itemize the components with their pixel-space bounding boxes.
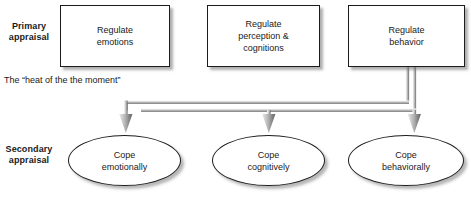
process-box-label: Regulate perception & cognitions [238,18,289,54]
outcome-ellipse-cope-emotionally[interactable]: Cope emotionally [68,135,181,186]
outcome-ellipse-cope-cognitively[interactable]: Cope cognitively [212,135,325,186]
connector-arrow-cope-behaviorally [408,110,421,133]
outcome-ellipse-label: Cope behaviorally [382,149,430,173]
process-box-regulate-behavior[interactable]: Regulate behavior [348,5,465,67]
process-box-label: Regulate emotions [97,24,134,48]
process-box-label: Regulate behavior [388,24,424,48]
row-label-secondary-appraisal: Secondary appraisal [2,144,56,166]
connector-trunk-lower [141,67,416,112]
appraisal-diagram: Primary appraisal Secondary appraisal Th… [0,0,471,201]
process-box-regulate-emotions[interactable]: Regulate emotions [60,5,170,67]
connector-arrow-cope-cognitively [262,110,275,133]
connector-trunk-upper [124,67,409,111]
caption-heat-of-the-moment: The “heat of the the moment” [4,74,121,86]
row-label-primary-appraisal: Primary appraisal [2,21,56,43]
connector-arrow-cope-emotionally [119,103,132,133]
outcome-ellipse-label: Cope cognitively [247,149,289,173]
outcome-ellipse-label: Cope emotionally [102,149,148,173]
process-box-regulate-perception-cognitions[interactable]: Regulate perception & cognitions [207,5,320,67]
outcome-ellipse-cope-behaviorally[interactable]: Cope behaviorally [348,135,464,186]
